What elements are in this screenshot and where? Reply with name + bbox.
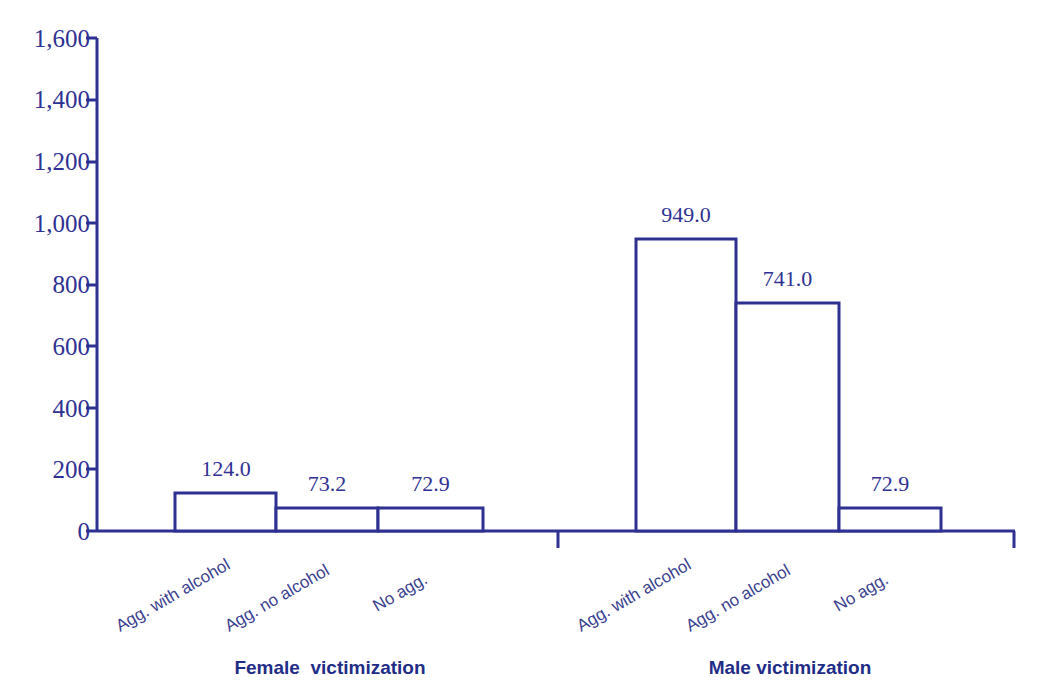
value-label-female-agg-with-alcohol: 124.0	[176, 458, 276, 480]
value-label-female-no-agg: 72.9	[378, 473, 483, 495]
value-label-female-agg-no-alcohol: 73.2	[276, 473, 378, 495]
group-title-male: Male victimization	[640, 657, 940, 679]
value-label-male-agg-no-alcohol: 741.0	[736, 268, 839, 290]
value-label-male-agg-with-alcohol: 949.0	[636, 204, 736, 226]
bar-chart: 1,600 1,400 1,200 1,000 800 600 400 200 …	[0, 0, 1045, 694]
bar-male-agg-with-alcohol	[636, 239, 736, 531]
group-title-female: Female victimization	[180, 657, 480, 679]
bar-female-agg-with-alcohol	[175, 493, 276, 531]
bar-male-agg-no-alcohol	[736, 303, 839, 531]
bar-male-no-agg	[839, 508, 941, 531]
bar-female-agg-no-alcohol	[276, 508, 378, 531]
value-label-male-no-agg: 72.9	[839, 473, 941, 495]
plot-area	[0, 0, 1045, 694]
bar-female-no-agg	[378, 508, 483, 531]
